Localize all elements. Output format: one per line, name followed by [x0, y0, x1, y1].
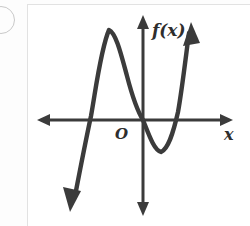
curve-left-end-arrowhead [63, 187, 81, 212]
function-curve [63, 22, 200, 212]
y-axis-bottom-arrowhead [137, 202, 149, 216]
origin-label: O [115, 125, 128, 143]
x-axis [37, 114, 233, 126]
y-axis-top-arrowhead [137, 15, 149, 29]
x-axis-left-arrowhead [37, 114, 50, 126]
graph-figure: f(x) x O [0, 0, 250, 226]
curve-right-end-arrowhead [183, 22, 200, 46]
x-axis-label: x [223, 125, 234, 144]
screenshot-root: f(x) x O [0, 0, 250, 226]
polynomial-curve-path [75, 30, 189, 196]
function-label: f(x) [151, 20, 186, 40]
